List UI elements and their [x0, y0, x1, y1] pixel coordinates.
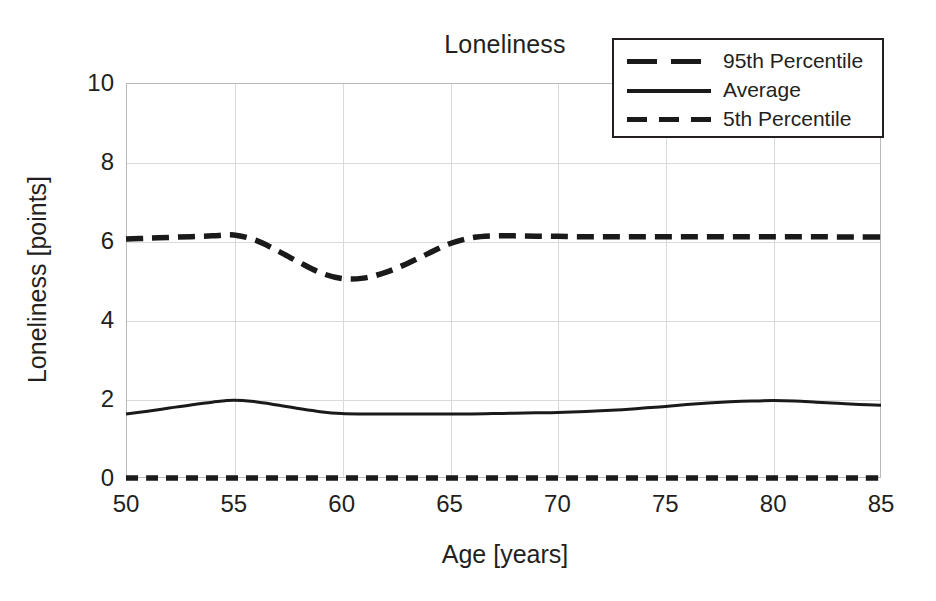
chart-title-text: Loneliness [444, 30, 566, 58]
y-tick-label: 6 [74, 229, 114, 253]
legend-swatch-dashed-long [627, 54, 711, 68]
series-line [126, 400, 881, 414]
x-tick-label: 60 [312, 492, 372, 516]
x-tick-label: 65 [420, 492, 480, 516]
legend-item[interactable]: 95th Percentile [614, 46, 882, 75]
chart-legend: 95th PercentileAverage5th Percentile [612, 38, 884, 138]
y-tick-label: 0 [74, 466, 114, 490]
y-tick-label: 4 [74, 308, 114, 332]
y-axis-tick-labels: 0246810 [66, 83, 114, 478]
series-layer [126, 83, 881, 478]
series-line [126, 235, 881, 279]
y-axis-title-text: Loneliness [points] [23, 176, 51, 383]
y-tick-label: 10 [74, 71, 114, 95]
x-axis-tick-labels: 5055606570758085 [126, 492, 881, 522]
x-axis-title: Age [years] [0, 540, 936, 569]
x-tick-label: 80 [743, 492, 803, 516]
x-tick-label: 50 [96, 492, 156, 516]
legend-swatch-solid [627, 83, 711, 97]
x-tick-label: 70 [527, 492, 587, 516]
legend-item[interactable]: Average [614, 75, 882, 104]
x-axis-title-text: Age [years] [442, 540, 568, 568]
legend-swatch-dashed-short [627, 112, 711, 126]
legend-line-glyph [627, 117, 711, 122]
x-tick-label: 75 [635, 492, 695, 516]
x-tick-label: 85 [851, 492, 911, 516]
legend-label: Average [723, 79, 801, 100]
legend-line-glyph [627, 59, 711, 64]
legend-item[interactable]: 5th Percentile [614, 104, 882, 133]
legend-line-glyph [627, 89, 711, 93]
y-tick-label: 2 [74, 387, 114, 411]
y-axis-title: Loneliness [points] [23, 80, 52, 480]
y-tick-label: 8 [74, 150, 114, 174]
chart-container: Loneliness Loneliness [points] Age [year… [0, 0, 936, 601]
x-tick-label: 55 [204, 492, 264, 516]
legend-label: 95th Percentile [723, 50, 863, 71]
legend-label: 5th Percentile [723, 108, 851, 129]
